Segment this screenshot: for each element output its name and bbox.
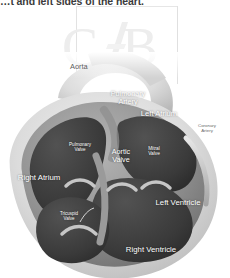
heart-anatomy-figure: [0, 52, 230, 278]
label-left-ventricle: Left Ventricle: [148, 199, 208, 207]
label-right-ventricle: Right Ventricle: [118, 246, 184, 254]
content-card-top-rule: [76, 6, 178, 7]
label-aortic-valve: Aortic Valve: [104, 148, 138, 164]
label-aorta: Aorta: [70, 63, 110, 71]
heart-illustration-svg: [0, 52, 230, 278]
screenshot-root: …t and left sides of the heart. C B: [0, 0, 230, 278]
right-ventricle-cavity: [36, 197, 109, 263]
label-coronary-artery: Coronary Artery: [188, 124, 226, 134]
label-mitral-valve: Mitral Valve: [140, 146, 168, 156]
top-fade-overlay: [0, 52, 230, 78]
label-left-atrium: Left Atrium: [131, 110, 187, 118]
label-tricuspid-valve: Tricuspid Valve: [52, 212, 86, 222]
label-right-atrium: Right Atrium: [10, 174, 68, 182]
label-pulmonary-artery: Pulmonary Artery: [104, 90, 152, 106]
label-pulmonary-valve: Pulmonary Valve: [62, 143, 98, 153]
